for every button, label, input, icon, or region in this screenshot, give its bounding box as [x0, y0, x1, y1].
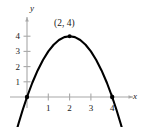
x-tick-label-2: 2	[63, 104, 77, 113]
y-tick-label-1: 1	[6, 78, 20, 87]
y-tick-label-2: 2	[6, 63, 20, 72]
x-tick-label-4: 4	[105, 104, 119, 113]
y-tick-label-3: 3	[6, 47, 20, 56]
parabola-figure: (2, 4) x y 1 2 3 4 1 2 3 4	[0, 0, 150, 127]
y-axis-label: y	[30, 4, 34, 13]
marked-points	[25, 34, 115, 99]
vertex-label: (2, 4)	[54, 19, 75, 29]
vertex-point-marker	[68, 34, 72, 38]
x-tick-label-1: 1	[41, 104, 55, 113]
y-tick-label-4: 4	[6, 32, 20, 41]
parabola-curve	[15, 36, 124, 127]
right-root-point-marker	[110, 95, 114, 99]
x-axis-label: x	[133, 92, 137, 101]
left-root-point-marker	[25, 95, 29, 99]
x-tick-label-3: 3	[84, 104, 98, 113]
y-axis-arrow-icon	[25, 17, 29, 22]
